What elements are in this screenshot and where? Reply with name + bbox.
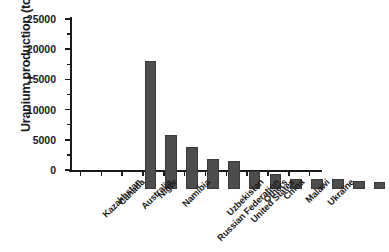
x-axis-tick (80, 171, 82, 176)
x-axis-tick-label: Niger (156, 177, 179, 200)
x-axis-tick (288, 171, 290, 176)
y-axis-tick-label: 15000 (27, 73, 56, 85)
x-axis-tick (101, 171, 103, 176)
x-axis-tick (246, 171, 248, 176)
y-axis-tick-label: 10000 (27, 104, 56, 116)
y-axis-tick-labels: 0500010000150002000025000 (0, 19, 64, 170)
y-axis-tick-label: 0 (50, 164, 56, 176)
y-axis-tick-label: 5000 (33, 134, 56, 146)
bar (374, 182, 386, 189)
x-axis-tick-label: Namibia (180, 177, 212, 209)
x-axis-tick (267, 171, 269, 176)
x-axis-tick (163, 171, 165, 176)
x-axis-tick (121, 171, 123, 176)
bar (145, 61, 157, 189)
x-axis-tick (142, 171, 144, 176)
bar-series (140, 38, 389, 189)
x-axis-tick (226, 171, 228, 176)
plot-area (70, 19, 320, 170)
x-axis-tick (184, 171, 186, 176)
y-axis-tick-label: 25000 (27, 13, 56, 25)
x-axis-tick (309, 171, 311, 176)
x-axis-tick (205, 171, 207, 176)
y-axis-tick-label: 20000 (27, 43, 56, 55)
x-axis-tick-labels: KazakhstanCanadaAustraliaNigerNamibiaRus… (70, 177, 329, 252)
